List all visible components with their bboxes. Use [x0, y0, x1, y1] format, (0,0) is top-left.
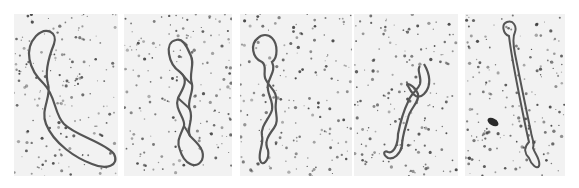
dna-tightly-coiled — [354, 14, 458, 176]
micrograph-panel-1 — [14, 14, 118, 176]
dna-relaxed-circle — [14, 14, 118, 176]
dna-few-twists — [124, 14, 232, 176]
micrograph-figure — [0, 0, 579, 188]
dna-more-twists — [240, 14, 352, 176]
micrograph-panel-3 — [240, 14, 352, 176]
micrograph-panel-5 — [465, 14, 565, 176]
debris-particle — [486, 116, 500, 128]
micrograph-panel-2 — [124, 14, 232, 176]
dna-fully-supercoiled — [465, 14, 565, 176]
micrograph-panel-4 — [354, 14, 458, 176]
